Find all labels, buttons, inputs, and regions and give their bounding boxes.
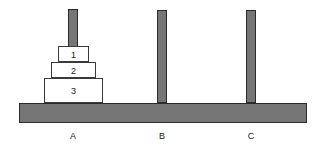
peg-label-c: C xyxy=(240,131,262,141)
tower-of-hanoi-diagram: 1 2 3 A B C xyxy=(0,0,322,152)
disk-2[interactable]: 2 xyxy=(51,62,96,78)
peg-label-a: A xyxy=(62,131,84,141)
base-bar xyxy=(19,103,307,123)
disk-1-label: 1 xyxy=(71,50,76,59)
peg-c[interactable] xyxy=(246,10,256,103)
disk-1[interactable]: 1 xyxy=(58,46,89,62)
disk-3-label: 3 xyxy=(71,87,76,96)
disk-2-label: 2 xyxy=(71,66,76,75)
disk-3[interactable]: 3 xyxy=(44,78,103,103)
peg-b[interactable] xyxy=(157,10,167,103)
peg-label-b: B xyxy=(151,131,173,141)
